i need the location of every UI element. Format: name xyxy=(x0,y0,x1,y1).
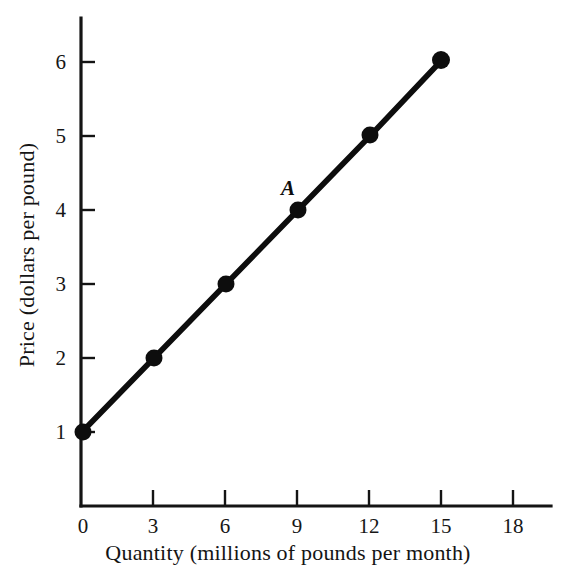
data-point-6-3 xyxy=(218,276,235,293)
y-tick-label-3: 3 xyxy=(44,274,66,295)
x-tick-label-6: 6 xyxy=(220,516,231,537)
y-tick-label-4: 4 xyxy=(44,200,66,221)
x-axis-ticks xyxy=(153,490,513,506)
data-point-3-2 xyxy=(146,350,163,367)
point-a-annotation: A xyxy=(281,176,295,201)
plot-canvas xyxy=(0,0,576,577)
x-axis-title: Quantity (millions of pounds per month) xyxy=(0,540,576,566)
data-point-9-4 xyxy=(290,202,307,219)
x-tick-label-9: 9 xyxy=(292,516,303,537)
y-tick-label-1: 1 xyxy=(44,422,66,443)
x-tick-label-0: 0 xyxy=(78,516,89,537)
x-tick-label-15: 15 xyxy=(431,516,452,537)
x-tick-label-12: 12 xyxy=(359,516,380,537)
y-tick-label-5: 5 xyxy=(44,126,66,147)
y-axis-title: Price (dollars per pound) xyxy=(14,55,40,455)
y-tick-label-2: 2 xyxy=(44,348,66,369)
y-axis-ticks xyxy=(81,62,95,432)
x-tick-label-18: 18 xyxy=(503,516,524,537)
x-tick-label-3: 3 xyxy=(148,516,159,537)
data-point-0-1 xyxy=(75,424,92,441)
supply-curve-figure: 1 2 3 4 5 6 0 3 6 9 12 15 18 A Quantity … xyxy=(0,0,576,577)
data-point-12-5 xyxy=(362,127,379,144)
y-tick-label-6: 6 xyxy=(44,52,66,73)
data-point-15-6 xyxy=(432,51,450,69)
supply-curve-line xyxy=(82,61,441,432)
